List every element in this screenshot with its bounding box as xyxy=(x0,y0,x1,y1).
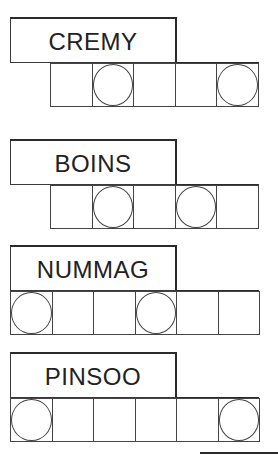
answer-cell[interactable] xyxy=(177,291,219,335)
cell-letter xyxy=(136,399,177,441)
answer-grid xyxy=(50,185,259,229)
cell-letter xyxy=(176,186,217,228)
answer-cell[interactable] xyxy=(53,398,95,442)
scrambled-word: NUMMAG xyxy=(10,245,177,291)
cell-letter xyxy=(94,399,135,441)
answer-cell[interactable] xyxy=(134,185,176,229)
final-answer-box-edge xyxy=(200,452,278,454)
cell-letter xyxy=(93,186,134,228)
cell-letter xyxy=(176,64,217,106)
cell-letter xyxy=(217,186,258,228)
answer-cell[interactable] xyxy=(51,185,93,229)
answer-cell-circled[interactable] xyxy=(11,291,53,335)
cell-letter xyxy=(11,292,52,334)
answer-grid xyxy=(10,398,260,442)
answer-cell-circled[interactable] xyxy=(93,185,135,229)
cell-letter xyxy=(177,399,218,441)
scrambled-word: PINSOO xyxy=(10,352,177,398)
answer-grid xyxy=(50,63,259,107)
puzzle-2: BOINS xyxy=(0,139,278,231)
answer-cell[interactable] xyxy=(219,291,261,335)
puzzle-1: CREMY xyxy=(0,17,278,109)
answer-cell[interactable] xyxy=(94,291,136,335)
cell-letter xyxy=(11,399,52,441)
answer-cell[interactable] xyxy=(177,398,219,442)
cell-letter xyxy=(93,64,134,106)
cell-letter xyxy=(217,64,258,106)
answer-cell[interactable] xyxy=(94,398,136,442)
answer-cell-circled[interactable] xyxy=(136,291,178,335)
answer-cell[interactable] xyxy=(53,291,95,335)
cell-letter xyxy=(136,292,177,334)
cell-letter xyxy=(134,64,175,106)
answer-cell-circled[interactable] xyxy=(93,63,135,107)
cell-letter xyxy=(51,64,92,106)
answer-cell-circled[interactable] xyxy=(176,185,218,229)
cell-letter xyxy=(53,399,94,441)
cell-letter xyxy=(94,292,135,334)
answer-cell-circled[interactable] xyxy=(217,63,259,107)
cell-letter xyxy=(219,292,260,334)
answer-cell[interactable] xyxy=(176,63,218,107)
answer-grid xyxy=(10,291,260,335)
answer-cell-circled[interactable] xyxy=(11,398,53,442)
cell-letter xyxy=(219,399,260,441)
cell-letter xyxy=(51,186,92,228)
puzzle-3: NUMMAG xyxy=(0,245,278,337)
cell-letter xyxy=(53,292,94,334)
answer-cell-circled[interactable] xyxy=(219,398,261,442)
cell-letter xyxy=(134,186,175,228)
answer-cell[interactable] xyxy=(134,63,176,107)
scrambled-word: BOINS xyxy=(10,139,177,185)
answer-cell[interactable] xyxy=(136,398,178,442)
answer-cell[interactable] xyxy=(51,63,93,107)
puzzle-4: PINSOO xyxy=(0,352,278,444)
answer-cell[interactable] xyxy=(217,185,259,229)
cell-letter xyxy=(177,292,218,334)
scrambled-word: CREMY xyxy=(10,17,177,63)
